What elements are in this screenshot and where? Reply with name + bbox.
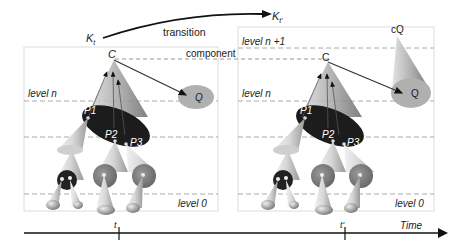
left-level-0-label: level 0 xyxy=(178,198,207,209)
k-right-label: Kt' xyxy=(272,10,283,24)
p1-label-right: P1 xyxy=(300,105,312,116)
node-q-label: Q xyxy=(195,92,203,103)
right-level-0-label: level 0 xyxy=(395,198,424,209)
node-cq-label: cQ xyxy=(391,24,404,35)
p1-label: P1 xyxy=(84,105,96,116)
transition-label: transition xyxy=(163,26,206,38)
node-c-label: C xyxy=(108,48,116,60)
p2-label-right: P2 xyxy=(322,129,335,140)
p3-label: P3 xyxy=(130,137,143,148)
p3-label-right: P3 xyxy=(347,137,360,148)
diagram-canvas: Kt Kt' transition component Q C P1 P2 P3 xyxy=(0,0,460,251)
left-tree: Q C P1 P2 P3 xyxy=(46,48,214,215)
time-axis xyxy=(24,227,448,240)
t-label: t xyxy=(114,220,117,230)
p2-label: P2 xyxy=(105,129,118,140)
k-left-label: Kt xyxy=(86,32,96,46)
right-level-n1-label: level n +1 xyxy=(242,36,285,47)
time-axis-label: Time xyxy=(400,220,423,231)
left-level-n-label: level n xyxy=(28,88,57,99)
component-label: component xyxy=(186,48,236,59)
t-prime-label: t' xyxy=(340,220,345,230)
right-level-n-label: level n xyxy=(242,88,271,99)
right-tree: cQ Q C P1 P2 P3 xyxy=(261,24,431,215)
node-q-label-right: Q xyxy=(411,88,419,99)
node-c-label-right: C xyxy=(322,51,330,63)
